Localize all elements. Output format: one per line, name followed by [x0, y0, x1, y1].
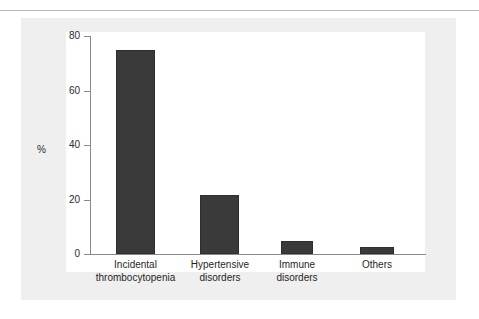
category-label-immune-disorders: Immune disorders — [260, 259, 334, 284]
y-tick-80 — [84, 36, 90, 37]
x-axis-line — [90, 254, 426, 255]
bar-others — [360, 247, 394, 254]
y-axis-title: % — [37, 145, 46, 155]
y-tick-0 — [84, 254, 90, 255]
category-label-incidental-thrombocytopenia: Incidental thrombocytopenia — [93, 259, 178, 284]
category-label-hypertensive-disorders: Hypertensive disorders — [178, 259, 262, 284]
y-tick-label-80: 80 — [58, 31, 80, 41]
y-axis-line — [90, 36, 91, 254]
y-tick-label-60: 60 — [58, 86, 80, 96]
bar-immune-disorders — [281, 241, 313, 254]
y-tick-20 — [84, 200, 90, 201]
y-tick-label-40: 40 — [58, 140, 80, 150]
y-tick-label-0: 0 — [58, 249, 80, 259]
y-tick-label-20: 20 — [58, 195, 80, 205]
top-horizontal-rule — [0, 10, 479, 11]
bar-incidental-thrombocytopenia — [116, 50, 155, 254]
figure-panel: 80 60 40 20 0 % Incidental thrombocytope… — [21, 18, 456, 300]
bar-hypertensive-disorders — [200, 195, 239, 254]
y-tick-60 — [84, 91, 90, 92]
category-label-others: Others — [342, 259, 412, 272]
y-tick-40 — [84, 145, 90, 146]
